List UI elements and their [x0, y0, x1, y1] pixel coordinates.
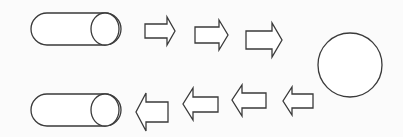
diagram-canvas — [0, 0, 403, 137]
arrow-left-icon — [232, 85, 266, 116]
arrow-left-icon — [283, 87, 313, 115]
circle-node — [318, 33, 382, 97]
arrow-right-icon — [195, 20, 228, 50]
arrow-right-icon — [246, 23, 282, 57]
arrow-left-icon — [183, 88, 218, 120]
bottom-cylinder — [31, 94, 121, 126]
bottom-arrows — [136, 85, 313, 131]
arrow-left-icon — [136, 93, 168, 131]
arrow-right-icon — [145, 17, 175, 45]
top-cylinder — [31, 13, 121, 45]
top-arrows — [145, 17, 282, 57]
